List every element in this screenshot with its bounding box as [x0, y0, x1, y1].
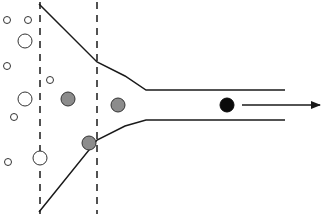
particles: [4, 17, 235, 166]
empty-particle: [11, 114, 18, 121]
empty-particle: [4, 17, 11, 24]
empty-particle: [18, 92, 32, 106]
empty-particle: [47, 77, 54, 84]
empty-particle: [4, 63, 11, 70]
empty-particle: [25, 17, 32, 24]
funnel-lower-wall: [39, 120, 285, 212]
gray-particle: [111, 98, 125, 112]
gray-particle: [61, 92, 75, 106]
gray-particle: [82, 136, 96, 150]
funnel-outline: [39, 4, 285, 212]
empty-particle: [5, 159, 12, 166]
black-particle: [220, 98, 234, 112]
funnel-upper-wall: [39, 4, 285, 90]
empty-particle: [18, 34, 32, 48]
funnel-particle-diagram: [0, 0, 323, 216]
empty-particle: [33, 151, 47, 165]
